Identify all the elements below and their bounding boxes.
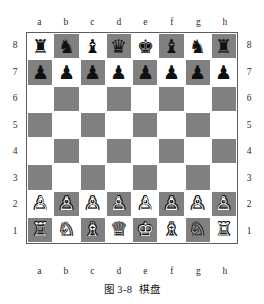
board-square-e3[interactable]: [132, 164, 158, 190]
board-square-g4[interactable]: [185, 138, 211, 164]
board-square-a8[interactable]: ♜: [27, 33, 53, 59]
board-square-h6[interactable]: [211, 86, 237, 112]
black-pawn-icon[interactable]: ♟: [58, 62, 75, 81]
board-square-f6[interactable]: [158, 86, 184, 112]
board-square-e4[interactable]: [132, 138, 158, 164]
black-pawn-icon[interactable]: ♟: [32, 62, 49, 81]
board-square-g1[interactable]: ♘: [185, 217, 211, 243]
board-square-d5[interactable]: [106, 112, 132, 138]
white-pawn-icon[interactable]: ♙: [58, 194, 75, 213]
board-square-d4[interactable]: [106, 138, 132, 164]
board-square-b5[interactable]: [53, 112, 79, 138]
white-rook-icon[interactable]: ♖: [32, 220, 49, 239]
white-pawn-icon[interactable]: ♙: [189, 194, 206, 213]
figure-caption: 图 3-8棋盘: [0, 281, 264, 296]
rank-label-1-right: 1: [240, 218, 258, 245]
board-square-b8[interactable]: ♞: [53, 33, 79, 59]
rank-label-8-left: 8: [6, 32, 24, 59]
board-square-f7[interactable]: ♟: [158, 59, 184, 85]
board-square-b6[interactable]: [53, 86, 79, 112]
black-king-icon[interactable]: ♚: [137, 36, 154, 55]
board-square-d8[interactable]: ♛: [106, 33, 132, 59]
board-square-a7[interactable]: ♟: [27, 59, 53, 85]
board-square-c2[interactable]: ♙: [80, 191, 106, 217]
board-square-h4[interactable]: [211, 138, 237, 164]
board-square-h1[interactable]: ♖: [211, 217, 237, 243]
white-knight-icon[interactable]: ♘: [58, 220, 75, 239]
board-square-g8[interactable]: ♞: [185, 33, 211, 59]
black-pawn-icon[interactable]: ♟: [215, 62, 232, 81]
board-square-a4[interactable]: [27, 138, 53, 164]
black-bishop-icon[interactable]: ♝: [163, 36, 180, 55]
board-square-e7[interactable]: ♟: [132, 59, 158, 85]
board-square-b2[interactable]: ♙: [53, 191, 79, 217]
board-square-d2[interactable]: ♙: [106, 191, 132, 217]
board-square-b3[interactable]: [53, 164, 79, 190]
board-square-c7[interactable]: ♟: [80, 59, 106, 85]
black-pawn-icon[interactable]: ♟: [84, 62, 101, 81]
black-pawn-icon[interactable]: ♟: [137, 62, 154, 81]
board-square-b4[interactable]: [53, 138, 79, 164]
white-pawn-icon[interactable]: ♙: [163, 194, 180, 213]
board-square-d1[interactable]: ♕: [106, 217, 132, 243]
board-square-e1[interactable]: ♔: [132, 217, 158, 243]
board-square-f1[interactable]: ♗: [158, 217, 184, 243]
board-square-h3[interactable]: [211, 164, 237, 190]
board-square-c5[interactable]: [80, 112, 106, 138]
board-square-g2[interactable]: ♙: [185, 191, 211, 217]
board-square-c6[interactable]: [80, 86, 106, 112]
board-square-f8[interactable]: ♝: [158, 33, 184, 59]
board-square-h2[interactable]: ♙: [211, 191, 237, 217]
board-square-a6[interactable]: [27, 86, 53, 112]
board-square-c3[interactable]: [80, 164, 106, 190]
board-square-a1[interactable]: ♖: [27, 217, 53, 243]
black-bishop-icon[interactable]: ♝: [84, 36, 101, 55]
board-square-f5[interactable]: [158, 112, 184, 138]
white-pawn-icon[interactable]: ♙: [32, 194, 49, 213]
board-square-e6[interactable]: [132, 86, 158, 112]
board-square-g7[interactable]: ♟: [185, 59, 211, 85]
black-pawn-icon[interactable]: ♟: [189, 62, 206, 81]
board-square-f3[interactable]: [158, 164, 184, 190]
white-queen-icon[interactable]: ♕: [110, 220, 127, 239]
board-square-b7[interactable]: ♟: [53, 59, 79, 85]
white-bishop-icon[interactable]: ♗: [84, 220, 101, 239]
black-rook-icon[interactable]: ♜: [32, 36, 49, 55]
white-bishop-icon[interactable]: ♗: [163, 220, 180, 239]
black-pawn-icon[interactable]: ♟: [163, 62, 180, 81]
board-square-a5[interactable]: [27, 112, 53, 138]
board-square-f4[interactable]: [158, 138, 184, 164]
board-square-g6[interactable]: [185, 86, 211, 112]
board-square-c1[interactable]: ♗: [80, 217, 106, 243]
file-label-d-bottom: d: [106, 263, 133, 279]
black-pawn-icon[interactable]: ♟: [110, 62, 127, 81]
black-rook-icon[interactable]: ♜: [215, 36, 232, 55]
black-knight-icon[interactable]: ♞: [58, 36, 75, 55]
board-square-h5[interactable]: [211, 112, 237, 138]
board-square-h7[interactable]: ♟: [211, 59, 237, 85]
board-square-e8[interactable]: ♚: [132, 33, 158, 59]
white-knight-icon[interactable]: ♘: [189, 220, 206, 239]
board-square-e5[interactable]: [132, 112, 158, 138]
board-square-d3[interactable]: [106, 164, 132, 190]
white-pawn-icon[interactable]: ♙: [110, 194, 127, 213]
white-rook-icon[interactable]: ♖: [215, 220, 232, 239]
board-square-b1[interactable]: ♘: [53, 217, 79, 243]
white-pawn-icon[interactable]: ♙: [84, 194, 101, 213]
white-king-icon[interactable]: ♔: [137, 220, 154, 239]
black-knight-icon[interactable]: ♞: [189, 36, 206, 55]
white-pawn-icon[interactable]: ♙: [137, 194, 154, 213]
board-square-a3[interactable]: [27, 164, 53, 190]
board-square-d7[interactable]: ♟: [106, 59, 132, 85]
board-square-c4[interactable]: [80, 138, 106, 164]
board-square-e2[interactable]: ♙: [132, 191, 158, 217]
board-square-f2[interactable]: ♙: [158, 191, 184, 217]
board-square-c8[interactable]: ♝: [80, 33, 106, 59]
white-pawn-icon[interactable]: ♙: [215, 194, 232, 213]
black-queen-icon[interactable]: ♛: [110, 36, 127, 55]
board-square-g3[interactable]: [185, 164, 211, 190]
board-square-g5[interactable]: [185, 112, 211, 138]
board-square-d6[interactable]: [106, 86, 132, 112]
board-square-a2[interactable]: ♙: [27, 191, 53, 217]
board-square-h8[interactable]: ♜: [211, 33, 237, 59]
